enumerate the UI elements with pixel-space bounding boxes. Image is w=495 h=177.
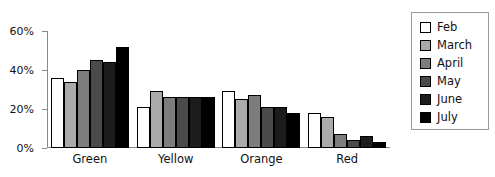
bar-orange-july[interactable] (287, 113, 300, 148)
plot-area: 0%20%40%60% GreenYellowOrangeRed (47, 31, 390, 148)
legend-swatch-may (420, 76, 431, 87)
x-axis-label-green: Green (51, 153, 129, 165)
legend-item-feb[interactable]: Feb (420, 18, 488, 36)
legend-label-feb: Feb (437, 21, 457, 33)
bar-red-may[interactable] (347, 140, 360, 148)
bar-orange-june[interactable] (274, 107, 287, 148)
bar-red-march[interactable] (321, 117, 334, 148)
bar-yellow-june[interactable] (189, 97, 202, 148)
bar-green-april[interactable] (77, 70, 90, 148)
legend-label-march: March (437, 39, 472, 51)
bar-group-orange: Orange (222, 31, 300, 148)
bar-green-feb[interactable] (51, 78, 64, 148)
bar-green-june[interactable] (103, 62, 116, 148)
bar-chart-figure: 0%20%40%60% GreenYellowOrangeRed FebMarc… (0, 0, 495, 177)
y-axis-tick-label: 60% (10, 26, 34, 37)
legend-label-april: April (437, 57, 463, 69)
y-axis-tick: 20% (42, 109, 47, 110)
bar-yellow-feb[interactable] (137, 107, 150, 148)
bar-red-april[interactable] (334, 134, 347, 148)
x-axis-label-orange: Orange (222, 153, 300, 165)
legend-swatch-july (420, 112, 431, 123)
bar-green-july[interactable] (116, 47, 129, 148)
legend-label-july: July (437, 111, 458, 123)
chart-legend: FebMarchAprilMayJuneJuly (411, 12, 489, 130)
y-axis-tick: 0% (42, 148, 47, 149)
bar-group-green: Green (51, 31, 129, 148)
legend-swatch-feb (420, 22, 431, 33)
bar-red-feb[interactable] (308, 113, 321, 148)
y-axis-tick: 60% (42, 31, 47, 32)
legend-swatch-june (420, 94, 431, 105)
legend-item-april[interactable]: April (420, 54, 488, 72)
bar-green-march[interactable] (64, 82, 77, 148)
bar-orange-march[interactable] (235, 99, 248, 148)
bar-yellow-july[interactable] (202, 97, 215, 148)
y-axis-line (47, 31, 48, 148)
bar-group-yellow: Yellow (137, 31, 215, 148)
legend-label-may: May (437, 75, 461, 87)
bar-orange-april[interactable] (248, 95, 261, 148)
y-axis-tick-label: 40% (10, 65, 34, 76)
y-axis-tick-label: 20% (10, 104, 34, 115)
bar-yellow-march[interactable] (150, 91, 163, 148)
bar-yellow-april[interactable] (163, 97, 176, 148)
bar-group-red: Red (308, 31, 386, 148)
bar-red-june[interactable] (360, 136, 373, 148)
x-axis-label-red: Red (308, 153, 386, 165)
legend-swatch-march (420, 40, 431, 51)
legend-item-march[interactable]: March (420, 36, 488, 54)
legend-swatch-april (420, 58, 431, 69)
bar-green-may[interactable] (90, 60, 103, 148)
x-axis-label-yellow: Yellow (137, 153, 215, 165)
legend-label-june: June (437, 93, 462, 105)
legend-item-july[interactable]: July (420, 108, 488, 126)
bar-yellow-may[interactable] (176, 97, 189, 148)
legend-item-may[interactable]: May (420, 72, 488, 90)
legend-item-june[interactable]: June (420, 90, 488, 108)
bar-red-july[interactable] (373, 142, 386, 148)
y-axis-tick-label: 0% (17, 143, 34, 154)
bar-orange-may[interactable] (261, 107, 274, 148)
bar-orange-feb[interactable] (222, 91, 235, 148)
y-axis-tick: 40% (42, 70, 47, 71)
